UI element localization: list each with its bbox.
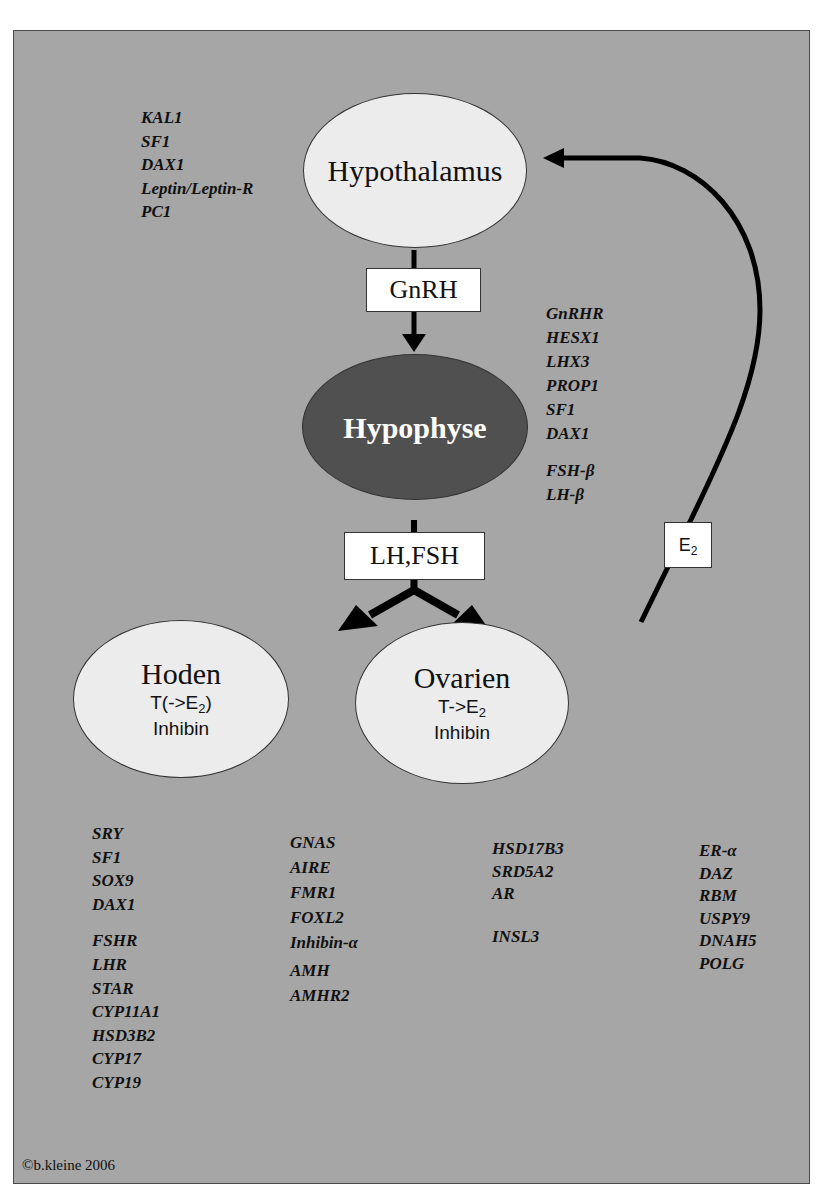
gene-item: USPY9 bbox=[699, 908, 757, 931]
arrowhead-down-icon bbox=[402, 334, 426, 352]
e2-label: E2 bbox=[679, 535, 698, 556]
hoden-inhibin: Inhibin bbox=[153, 716, 209, 742]
gene-item: LH-β bbox=[546, 483, 604, 507]
gene-item: FOXL2 bbox=[290, 905, 358, 930]
gene-item: LHR bbox=[92, 953, 160, 977]
node-ovarien: Ovarien T->E2 Inhibin bbox=[355, 622, 569, 784]
node-hypothalamus: Hypothalamus bbox=[303, 93, 527, 248]
gene-item: Inhibin-α bbox=[290, 930, 358, 955]
gene-item: SF1 bbox=[92, 846, 160, 870]
gene-gap bbox=[492, 906, 564, 926]
gene-item: AR bbox=[492, 883, 564, 906]
gene-item: FSHR bbox=[92, 929, 160, 953]
fork-right-branch bbox=[414, 590, 458, 615]
gene-gap bbox=[92, 916, 160, 929]
ovarien-inhibin: Inhibin bbox=[434, 720, 490, 746]
gene-item: SRD5A2 bbox=[492, 861, 564, 884]
ovarien-hormone: T->E2 bbox=[438, 694, 486, 720]
gene-item: DAX1 bbox=[141, 153, 253, 177]
gene-item: AMH bbox=[290, 958, 358, 983]
gene-item: Leptin/Leptin-R bbox=[141, 177, 253, 201]
genes-hypothalamus: KAL1 SF1 DAX1 Leptin/Leptin-R PC1 bbox=[141, 106, 253, 224]
e2-box: E2 bbox=[664, 522, 712, 568]
gene-item: SOX9 bbox=[92, 869, 160, 893]
gene-item: HSD17B3 bbox=[492, 838, 564, 861]
gene-item: CYP17 bbox=[92, 1047, 160, 1071]
copyright-notice: ©b.kleine 2006 bbox=[22, 1157, 115, 1174]
genes-column-2: GNAS AIRE FMR1 FOXL2 Inhibin-α AMH AMHR2 bbox=[290, 830, 358, 1008]
gene-item: FSH-β bbox=[546, 459, 604, 483]
genes-column-4: ER-α DAZ RBM USPY9 DNAH5 POLG bbox=[699, 840, 757, 975]
gene-item: PROP1 bbox=[546, 374, 604, 398]
gene-item: GNAS bbox=[290, 830, 358, 855]
gene-item: FMR1 bbox=[290, 880, 358, 905]
hoden-label: Hoden bbox=[141, 657, 221, 690]
ovarien-label: Ovarien bbox=[414, 661, 511, 694]
gene-item: HSD3B2 bbox=[92, 1024, 160, 1048]
node-hypophyse: Hypophyse bbox=[302, 354, 528, 500]
gene-item: CYP11A1 bbox=[92, 1000, 160, 1024]
gene-item: SF1 bbox=[546, 398, 604, 422]
arrowhead-left-icon bbox=[543, 148, 564, 168]
gene-item: LHX3 bbox=[546, 350, 604, 374]
gene-item: STAR bbox=[92, 977, 160, 1001]
gene-item: GnRHR bbox=[546, 302, 604, 326]
gene-item: SRY bbox=[92, 822, 160, 846]
hypophyse-label: Hypophyse bbox=[343, 411, 486, 444]
gene-item: KAL1 bbox=[141, 106, 253, 130]
gene-gap bbox=[546, 446, 604, 459]
gene-item: POLG bbox=[699, 953, 757, 976]
genes-hypophyse: GnRHR HESX1 LHX3 PROP1 SF1 DAX1 FSH-β LH… bbox=[546, 302, 604, 507]
gene-item: DAX1 bbox=[546, 422, 604, 446]
genes-column-1: SRY SF1 SOX9 DAX1 FSHR LHR STAR CYP11A1 … bbox=[92, 822, 160, 1095]
fork-left-branch bbox=[370, 590, 414, 615]
gene-item: INSL3 bbox=[492, 926, 564, 949]
gene-item: AIRE bbox=[290, 855, 358, 880]
gene-item: SF1 bbox=[141, 130, 253, 154]
gnrh-box: GnRH bbox=[366, 268, 481, 312]
node-hoden: Hoden T(->E2) Inhibin bbox=[73, 620, 289, 778]
gene-item: PC1 bbox=[141, 200, 253, 224]
gene-item: DAX1 bbox=[92, 893, 160, 917]
gene-item: HESX1 bbox=[546, 326, 604, 350]
genes-column-3: HSD17B3 SRD5A2 AR INSL3 bbox=[492, 838, 564, 948]
hoden-hormone: T(->E2) bbox=[150, 690, 212, 716]
gene-item: DAZ bbox=[699, 863, 757, 886]
gene-item: AMHR2 bbox=[290, 983, 358, 1008]
gene-item: CYP19 bbox=[92, 1071, 160, 1095]
hypothalamus-label: Hypothalamus bbox=[328, 154, 503, 187]
gene-item: DNAH5 bbox=[699, 930, 757, 953]
gene-item: ER-α bbox=[699, 840, 757, 863]
lh-fsh-box: LH,FSH bbox=[344, 532, 485, 580]
gene-item: RBM bbox=[699, 885, 757, 908]
